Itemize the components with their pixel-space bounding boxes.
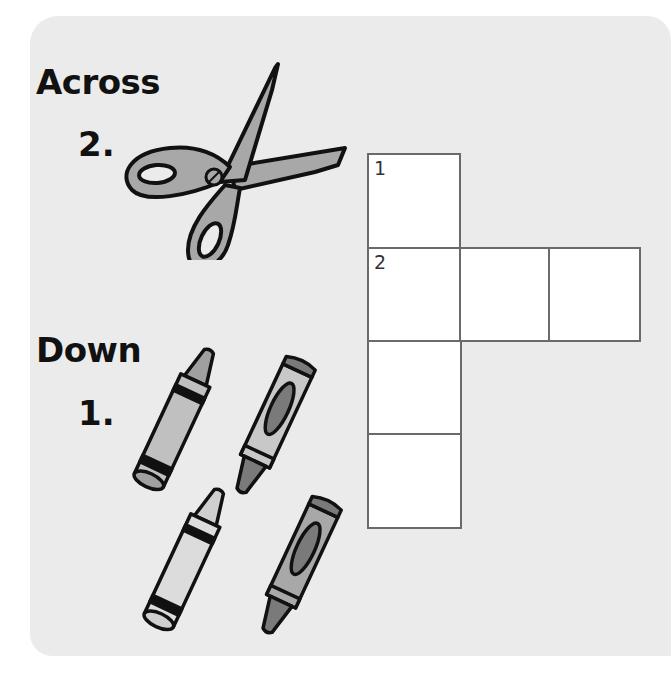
grid-cell[interactable] [548, 247, 641, 342]
grid-cell-1-down-start[interactable]: 1 [367, 153, 461, 249]
cell-number: 2 [374, 251, 386, 273]
scissors-icon [110, 60, 370, 260]
grid-cell[interactable] [459, 247, 550, 342]
cell-number: 1 [374, 157, 386, 179]
grid-cell-2-across-start[interactable]: 2 [367, 247, 461, 342]
grid-cell[interactable] [367, 340, 462, 435]
grid-cell[interactable] [367, 433, 462, 529]
crayons-icon [110, 345, 360, 665]
